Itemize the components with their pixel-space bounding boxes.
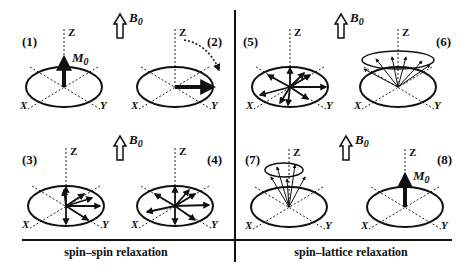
z-axis-label: Z	[179, 145, 186, 157]
panel-8: ZXYM0(8)	[360, 146, 452, 231]
z-axis-label: Z	[179, 26, 186, 38]
z-axis-label: Z	[409, 146, 416, 158]
b0-label: B0	[128, 132, 143, 149]
y-axis-label: Y	[211, 99, 219, 111]
b0-arrow-icon	[340, 136, 352, 160]
diagram-canvas: ZXYM0(1)ZXY(2)B0ZXY(3)ZXY(4)B0ZXY(5)ZXY(…	[0, 0, 470, 276]
spin-vector	[175, 206, 195, 220]
z-axis-label: Z	[294, 26, 301, 38]
b0-arrow-icon	[114, 14, 126, 38]
panel-label: (8)	[437, 152, 452, 167]
panel-7: ZXY(7)	[244, 146, 333, 231]
panel-3: ZXY(3)	[21, 145, 110, 230]
b0-label: B0	[128, 10, 143, 27]
b0-label: B0	[354, 132, 369, 149]
y-axis-label: Y	[434, 99, 442, 111]
b0-field-arrow: B0	[340, 132, 369, 160]
spin-vector	[290, 87, 308, 99]
panel-6: ZXY(6)	[353, 26, 451, 111]
spin-vector	[268, 75, 290, 87]
precession-cone	[265, 163, 303, 177]
panel-label: (4)	[207, 152, 222, 167]
y-axis-label: Y	[441, 219, 449, 231]
panel-label: (3)	[22, 152, 37, 167]
panel-label: (6)	[436, 34, 451, 49]
x-axis-label: X	[130, 218, 139, 230]
y-axis-label: Y	[102, 218, 110, 230]
spin-vector	[66, 206, 88, 220]
spin-lattice-caption: spin–lattice relaxation	[294, 245, 408, 259]
b0-arrow-icon	[114, 136, 126, 160]
spin-vector	[66, 198, 92, 206]
m0-label: M0	[71, 50, 89, 67]
b0-arrow-icon	[335, 14, 347, 38]
spin-vector	[175, 205, 209, 206]
panel-label: (5)	[243, 34, 258, 49]
panel-label: (2)	[207, 34, 222, 49]
z-axis-label: Z	[68, 26, 75, 38]
x-axis-label: X	[245, 99, 254, 111]
x-axis-label: X	[19, 99, 28, 111]
spin-vector	[155, 194, 175, 206]
z-axis-label: Z	[70, 145, 77, 157]
x-axis-label: X	[21, 218, 30, 230]
panel-5: ZXY(5)	[243, 26, 334, 111]
b0-field-arrow: B0	[114, 132, 143, 160]
m0-label: M0	[412, 168, 430, 185]
y-axis-label: Y	[211, 218, 219, 230]
y-axis-label: Y	[326, 99, 334, 111]
x-axis-label: X	[130, 99, 139, 111]
b0-label: B0	[349, 10, 364, 27]
y-axis-label: Y	[100, 99, 108, 111]
b0-field-arrow: B0	[114, 10, 143, 38]
x-axis-label: X	[360, 219, 369, 231]
spin-spin-caption: spin–spin relaxation	[64, 245, 168, 259]
z-axis-label: Z	[293, 146, 300, 158]
panel-label: (1)	[22, 34, 37, 49]
x-axis-label: X	[244, 219, 253, 231]
spin-vector	[66, 194, 84, 206]
panel-4: ZXY(4)	[130, 145, 222, 230]
z-axis-label: Z	[402, 26, 409, 38]
panel-2: ZXY(2)	[130, 26, 222, 111]
panel-1: ZXYM0(1)	[19, 26, 108, 111]
panel-label: (7)	[245, 152, 260, 167]
y-axis-label: Y	[325, 219, 333, 231]
spin-vector	[364, 69, 398, 87]
relaxation-diagram: ZXYM0(1)ZXY(2)B0ZXY(3)ZXY(4)B0ZXY(5)ZXY(…	[0, 0, 470, 276]
x-axis-label: X	[353, 99, 362, 111]
b0-field-arrow: B0	[335, 10, 364, 38]
